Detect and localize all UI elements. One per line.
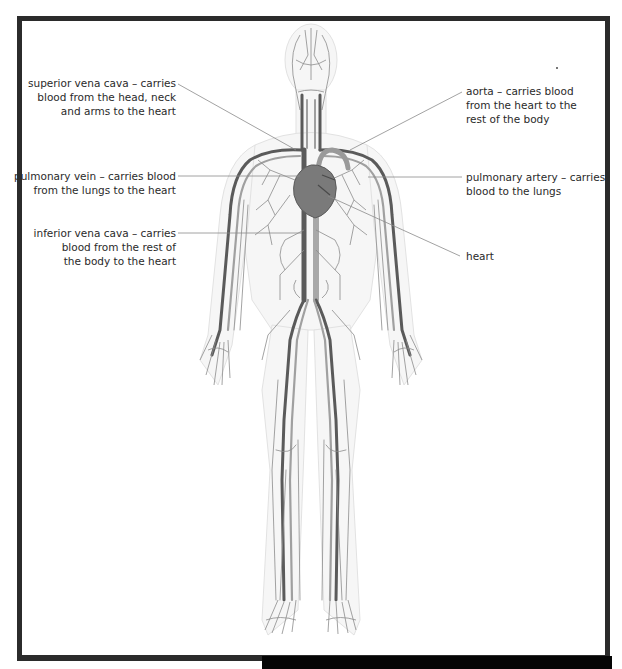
body-outline <box>200 24 422 635</box>
label-aorta: aorta – carries blood from the heart to … <box>466 84 577 126</box>
label-inferior-vena-cava: inferior vena cava – carries blood from … <box>34 226 176 268</box>
leader-aorta <box>350 92 462 150</box>
label-superior-vena-cava: superior vena cava – carries blood from … <box>28 76 176 118</box>
leader-superior-vena-cava <box>178 84 296 150</box>
hand-vessels <box>200 335 422 385</box>
label-pulmonary-vein: pulmonary vein – carries blood from the … <box>14 169 176 197</box>
label-pulmonary-artery: pulmonary artery – carries blood to the … <box>466 170 605 198</box>
label-heart: heart <box>466 249 494 263</box>
